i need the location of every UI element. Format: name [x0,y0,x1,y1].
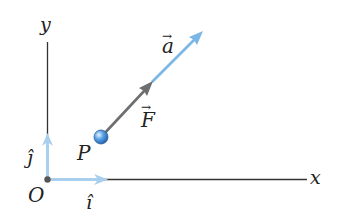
y-axis-label: y [40,15,51,34]
i-hat-label: î [86,193,92,212]
origin-label: O [28,185,44,205]
point-p-label: P [77,143,90,163]
x-axis-label: x [310,168,321,187]
j-hat-vector [42,133,53,179]
force-label: F [141,110,155,130]
accel-label: a [162,36,174,56]
i-hat-vector [47,174,108,185]
vector-diagram: y x O ĵ î P → F → a [0,0,339,221]
acceleration-vector [152,31,203,82]
origin-dot [44,176,50,182]
particle-p [94,130,108,144]
j-hat-label: ĵ [27,148,33,167]
